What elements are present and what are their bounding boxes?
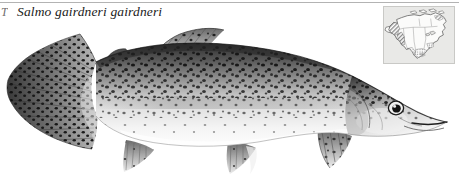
top-divider-rule <box>0 2 459 3</box>
rainbow-trout-illustration <box>0 18 459 174</box>
caudal-fin <box>0 18 110 174</box>
fish-head <box>344 74 450 136</box>
fish-svg <box>0 18 459 174</box>
field-guide-plate: T Salmo gairdneri gairdneri <box>0 0 459 174</box>
